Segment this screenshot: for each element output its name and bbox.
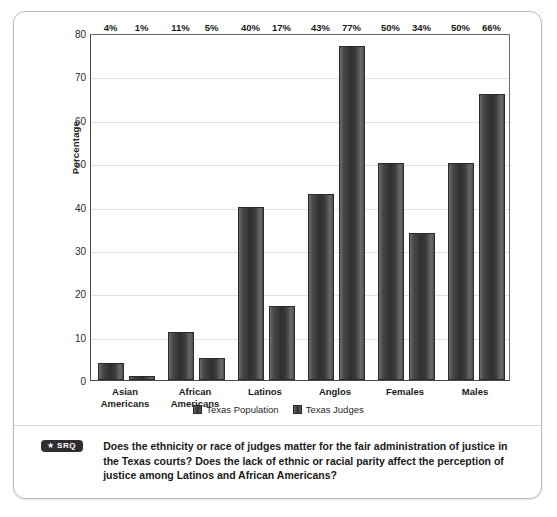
bar[interactable]: 11% (168, 332, 194, 380)
bar-pair: 40%17% (231, 35, 301, 380)
bar-pair: 4%1% (91, 35, 161, 380)
x-axis-label-line: Anglos (300, 386, 370, 398)
x-axis-label: Latinos (230, 386, 300, 398)
y-tick-label: 80 (60, 29, 86, 40)
chart-legend: Texas PopulationTexas Judges (14, 404, 542, 415)
bar-value-label: 40% (241, 22, 260, 33)
bar[interactable]: 1% (129, 376, 155, 380)
bar-chart: Percentage 01020304050607080 4%1%11%5%40… (14, 12, 542, 417)
bar-group: 43%77% (301, 35, 371, 380)
x-axis-label-line: Females (370, 386, 440, 398)
x-axis-label: Females (370, 386, 440, 398)
bar-value-label: 1% (135, 22, 149, 33)
x-axis-label-line: Males (440, 386, 510, 398)
bar-value-label: 66% (482, 22, 501, 33)
legend-swatch-icon (293, 405, 302, 414)
bar-item[interactable]: 50% (378, 35, 404, 380)
bar-item[interactable]: 1% (129, 35, 155, 380)
bar-item[interactable]: 11% (168, 35, 194, 380)
y-tick-label: 60 (60, 115, 86, 126)
y-tick-label: 30 (60, 245, 86, 256)
plot-area: 4%1%11%5%40%17%43%77%50%34%50%66% (90, 34, 510, 381)
bar-item[interactable]: 40% (238, 35, 264, 380)
bar-value-label: 11% (171, 22, 190, 33)
legend-item[interactable]: Texas Population (193, 404, 278, 415)
bar-value-label: 17% (272, 22, 291, 33)
bar[interactable]: 50% (378, 163, 404, 380)
bar-item[interactable]: 50% (448, 35, 474, 380)
bar[interactable]: 17% (269, 306, 295, 380)
bar[interactable]: 40% (238, 207, 264, 381)
bar[interactable]: 34% (409, 233, 435, 380)
y-tick-label: 40 (60, 202, 86, 213)
legend-label: Texas Judges (306, 404, 364, 415)
srq-badge: ★ SRQ (41, 440, 83, 452)
bar[interactable]: 5% (199, 358, 225, 380)
bars-layer: 4%1%11%5%40%17%43%77%50%34%50%66% (91, 35, 509, 380)
bar-item[interactable]: 4% (98, 35, 124, 380)
star-icon: ★ (47, 442, 54, 450)
bar-group: 50%34% (371, 35, 441, 380)
footer-question-block: ★ SRQ Does the ethnicity or race of judg… (14, 431, 542, 483)
bar-item[interactable]: 5% (199, 35, 225, 380)
y-tick-label: 20 (60, 289, 86, 300)
bar-item[interactable]: 66% (479, 35, 505, 380)
y-axis-tick-labels: 01020304050607080 (58, 34, 86, 381)
bar-pair: 50%66% (441, 35, 511, 380)
legend-swatch-icon (193, 405, 202, 414)
bar-value-label: 43% (311, 22, 330, 33)
srq-badge-label: SRQ (57, 442, 76, 450)
figure-frame: Percentage 01020304050607080 4%1%11%5%40… (13, 11, 542, 499)
bar[interactable]: 66% (479, 94, 505, 380)
bar-pair: 43%77% (301, 35, 371, 380)
x-axis-label: Anglos (300, 386, 370, 398)
bar[interactable]: 4% (98, 363, 124, 380)
bar-group: 4%1% (91, 35, 161, 380)
bar-value-label: 4% (104, 22, 118, 33)
y-tick-label: 0 (60, 376, 86, 387)
x-axis-label-line: Asian (90, 386, 160, 398)
bar-value-label: 5% (205, 22, 219, 33)
bar-value-label: 77% (342, 22, 361, 33)
x-axis-label-line: Latinos (230, 386, 300, 398)
bar-group: 50%66% (441, 35, 511, 380)
footer-divider (14, 425, 542, 426)
bar-value-label: 50% (451, 22, 470, 33)
bar-group: 11%5% (161, 35, 231, 380)
bar[interactable]: 50% (448, 163, 474, 380)
legend-label: Texas Population (206, 404, 278, 415)
bar-pair: 50%34% (371, 35, 441, 380)
y-tick-label: 70 (60, 72, 86, 83)
x-axis-label-line: African (160, 386, 230, 398)
y-tick-label: 50 (60, 159, 86, 170)
footer-question-text: Does the ethnicity or race of judges mat… (103, 439, 508, 483)
bar-pair: 11%5% (161, 35, 231, 380)
legend-item[interactable]: Texas Judges (293, 404, 364, 415)
bar[interactable]: 43% (308, 194, 334, 381)
bar-group: 40%17% (231, 35, 301, 380)
bar-item[interactable]: 43% (308, 35, 334, 380)
bar-item[interactable]: 17% (269, 35, 295, 380)
bar-value-label: 34% (412, 22, 431, 33)
bar-item[interactable]: 34% (409, 35, 435, 380)
bar-item[interactable]: 77% (339, 35, 365, 380)
bar[interactable]: 77% (339, 46, 365, 380)
x-axis-label: Males (440, 386, 510, 398)
y-tick-label: 10 (60, 332, 86, 343)
bar-value-label: 50% (381, 22, 400, 33)
